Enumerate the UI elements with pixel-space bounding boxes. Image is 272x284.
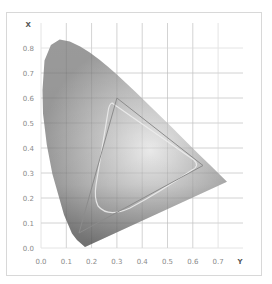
svg-text:0.6: 0.6	[187, 258, 199, 266]
svg-text:0.6: 0.6	[23, 95, 35, 103]
chromaticity-diagram: 0.0 0.1 0.2 0.3 0.4 0.5 0.6 0.7 0.8 X 0.…	[0, 0, 272, 284]
svg-text:0.0: 0.0	[35, 258, 46, 266]
svg-text:0.3: 0.3	[23, 170, 34, 178]
svg-text:0.0: 0.0	[23, 245, 34, 253]
x-axis: 0.0 0.1 0.2 0.3 0.4 0.5 0.6 0.7	[35, 258, 223, 266]
svg-text:0.1: 0.1	[61, 258, 72, 266]
svg-text:0.4: 0.4	[137, 258, 149, 266]
svg-text:0.7: 0.7	[213, 258, 224, 266]
x-axis-title: Y	[236, 258, 243, 266]
svg-text:0.5: 0.5	[162, 258, 173, 266]
y-axis: 0.0 0.1 0.2 0.3 0.4 0.5 0.6 0.7 0.8	[23, 45, 35, 253]
svg-text:0.5: 0.5	[23, 120, 34, 128]
svg-text:0.7: 0.7	[23, 70, 34, 78]
svg-text:0.3: 0.3	[111, 258, 122, 266]
svg-text:0.4: 0.4	[23, 145, 35, 153]
svg-text:0.8: 0.8	[23, 45, 34, 53]
svg-text:0.2: 0.2	[23, 195, 34, 203]
y-axis-title: X	[26, 21, 32, 29]
spectral-locus	[43, 40, 228, 248]
svg-text:0.1: 0.1	[23, 220, 34, 228]
svg-text:0.2: 0.2	[86, 258, 97, 266]
